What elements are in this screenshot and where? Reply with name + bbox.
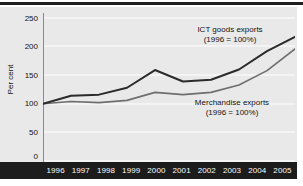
annotation-ict-goods-exports: ICT goods exports (1996 = 100%) [178, 25, 282, 45]
annotation-ict-line2: (1996 = 100%) [178, 35, 282, 45]
x-tick-2001: 2001 [169, 162, 194, 179]
chart-panel: 250 200 150 100 50 0 Per cent [0, 7, 297, 162]
y-tick-250: 250 [14, 15, 38, 23]
y-tick-150: 150 [14, 72, 38, 80]
annotation-merchandise-exports: Merchandise exports (1996 = 100%) [176, 98, 288, 118]
y-tick-0: 0 [14, 153, 38, 161]
annotation-merchandise-line1: Merchandise exports [176, 98, 288, 108]
x-axis-tick-labels: 1996 1997 1998 1999 2000 2001 2002 2003 … [43, 162, 295, 179]
x-tick-2002: 2002 [194, 162, 219, 179]
x-tick-1996: 1996 [43, 162, 68, 179]
top-rule-divider [0, 2, 303, 5]
x-tick-1997: 1997 [68, 162, 93, 179]
x-tick-2003: 2003 [219, 162, 244, 179]
y-axis-title: Per cent [6, 57, 15, 103]
chart-figure: 250 200 150 100 50 0 Per cent [0, 0, 303, 186]
x-tick-1998: 1998 [93, 162, 118, 179]
y-axis-tick-labels: 250 200 150 100 50 0 [14, 7, 38, 162]
y-tick-200: 200 [14, 43, 38, 51]
x-tick-2004: 2004 [245, 162, 270, 179]
y-tick-50: 50 [14, 129, 38, 137]
x-tick-2000: 2000 [144, 162, 169, 179]
annotation-merchandise-line2: (1996 = 100%) [176, 108, 288, 118]
y-axis-spine [43, 13, 44, 162]
annotation-ict-line1: ICT goods exports [178, 25, 282, 35]
y-tick-100: 100 [14, 100, 38, 108]
x-tick-1999: 1999 [119, 162, 144, 179]
x-tick-2005: 2005 [270, 162, 295, 179]
